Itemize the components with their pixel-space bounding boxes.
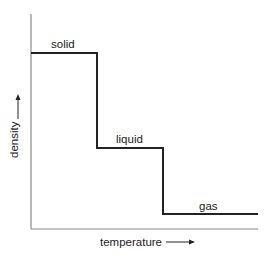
y-axis-label: density: [8, 121, 20, 158]
phase-density-diagram: solid liquid gas temperature density: [0, 0, 273, 259]
gas-label: gas: [199, 200, 218, 212]
density-step-line: [31, 53, 258, 214]
x-arrow-icon: [166, 240, 195, 245]
x-axis-label: temperature: [100, 236, 162, 248]
y-arrow-icon: [16, 94, 21, 119]
liquid-label: liquid: [116, 133, 143, 145]
solid-label: solid: [51, 38, 75, 50]
